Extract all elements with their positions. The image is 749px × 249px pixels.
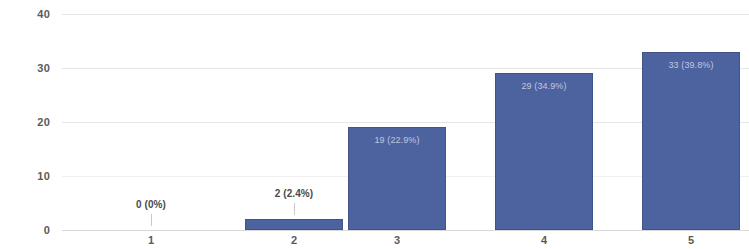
bar-group-1[interactable]: 0 (0%) bbox=[102, 0, 200, 231]
leader-tick-1 bbox=[151, 214, 152, 226]
y-axis-tick-10: 10 bbox=[37, 170, 50, 182]
bar-4[interactable] bbox=[495, 73, 593, 230]
x-axis-tick-3: 3 bbox=[394, 234, 400, 246]
bar-group-2[interactable]: 2 (2.4%) bbox=[245, 0, 343, 231]
y-axis: 40 30 20 10 0 bbox=[0, 0, 62, 231]
y-axis-tick-0: 0 bbox=[44, 224, 50, 236]
x-axis: 1 2 3 4 5 bbox=[62, 231, 749, 249]
y-axis-tick-20: 20 bbox=[37, 116, 50, 128]
bar-label-2: 2 (2.4%) bbox=[245, 188, 343, 199]
x-axis-tick-1: 1 bbox=[148, 234, 154, 246]
plot-area: 0 (0%) 2 (2.4%) 19 (22.9%) 29 (34.9%) bbox=[62, 0, 749, 231]
bar-5[interactable] bbox=[642, 52, 740, 230]
x-axis-tick-2: 2 bbox=[291, 234, 297, 246]
bar-label-5: 33 (39.8%) bbox=[642, 60, 740, 70]
bar-label-4: 29 (34.9%) bbox=[495, 81, 593, 91]
x-axis-tick-4: 4 bbox=[541, 234, 547, 246]
bar-chart: 40 30 20 10 0 0 (0%) 2 (2.4%) bbox=[0, 0, 749, 249]
y-axis-tick-30: 30 bbox=[37, 62, 50, 74]
bar-2[interactable] bbox=[245, 219, 343, 230]
y-axis-tick-40: 40 bbox=[37, 8, 50, 20]
bars-layer: 0 (0%) 2 (2.4%) 19 (22.9%) 29 (34.9%) bbox=[62, 0, 749, 231]
x-axis-tick-5: 5 bbox=[688, 234, 694, 246]
bar-group-5[interactable]: 33 (39.8%) bbox=[642, 0, 740, 231]
leader-tick-2 bbox=[294, 203, 295, 215]
bar-label-3: 19 (22.9%) bbox=[348, 135, 446, 145]
bar-group-4[interactable]: 29 (34.9%) bbox=[495, 0, 593, 231]
bar-group-3[interactable]: 19 (22.9%) bbox=[348, 0, 446, 231]
bar-label-1: 0 (0%) bbox=[102, 199, 200, 210]
